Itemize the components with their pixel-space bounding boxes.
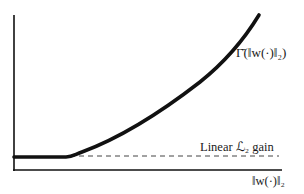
x-axis-label: ‖w(·)‖₂ bbox=[252, 174, 285, 189]
gamma-curve bbox=[14, 15, 259, 157]
diagram-canvas bbox=[0, 0, 304, 194]
linear-gain-label: Linear ℒ₂ gain bbox=[200, 139, 274, 155]
curve-label: Γ̄(‖w(·)‖₂) bbox=[236, 45, 286, 61]
